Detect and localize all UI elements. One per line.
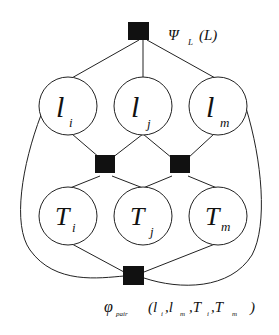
l-i-sub: i bbox=[69, 115, 73, 130]
l-m-main: l bbox=[206, 90, 214, 123]
psi-subscript: L bbox=[187, 37, 193, 47]
node-l-m bbox=[189, 77, 247, 135]
T-m-main: T bbox=[205, 202, 221, 231]
node-l-j bbox=[114, 77, 172, 135]
T-i-sub: i bbox=[72, 220, 76, 235]
phi-symbol: φ bbox=[104, 298, 113, 316]
l-j-main: l bbox=[131, 90, 139, 123]
node-l-i bbox=[39, 77, 97, 135]
phi-arg-2: ,l bbox=[165, 299, 173, 315]
phi-arg-sub-2: m bbox=[180, 310, 185, 318]
l-i-main: l bbox=[56, 90, 64, 123]
phi-arg-close: ) bbox=[249, 299, 255, 316]
phi-arg-4: ,T bbox=[211, 299, 225, 315]
T-i-main: T bbox=[55, 202, 71, 231]
T-j-main: T bbox=[130, 202, 146, 231]
phi-arg-3: ,T bbox=[189, 299, 203, 315]
psi-args: (L) bbox=[199, 27, 217, 44]
top-factor-label: Ψ L (L) bbox=[168, 27, 217, 47]
phi-subscript: pair bbox=[115, 310, 128, 318]
T-m-sub: m bbox=[221, 219, 230, 234]
factor-node-left bbox=[95, 155, 115, 173]
top-factor-node bbox=[128, 22, 149, 40]
pair-factor-label: φ pair (l i ,l m ,T i ,T m ) bbox=[104, 298, 255, 318]
factor-node-right bbox=[170, 155, 190, 173]
phi-arg-sub-1: i bbox=[161, 310, 163, 318]
factor-graph-diagram: l i l j l m T i T j T m Ψ L (L) φ pair (… bbox=[0, 0, 279, 335]
phi-arg-sub-3: i bbox=[207, 310, 209, 318]
psi-symbol: Ψ bbox=[168, 27, 180, 43]
pair-factor-node bbox=[123, 266, 144, 285]
phi-arg-sub-4: m bbox=[232, 310, 237, 318]
phi-arg-open: (l bbox=[148, 299, 157, 316]
l-m-sub: m bbox=[220, 115, 229, 130]
